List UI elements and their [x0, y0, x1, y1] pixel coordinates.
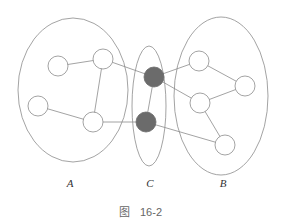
- graph-diagram: [0, 0, 281, 223]
- node-a1: [48, 56, 68, 76]
- group-ellipse-a: [18, 18, 128, 162]
- caption-prefix: 图: [119, 206, 130, 218]
- node-c1: [144, 67, 164, 87]
- group-label-a: A: [67, 177, 74, 189]
- node-a2: [93, 49, 113, 69]
- graph-nodes: [28, 49, 255, 155]
- group-label-c: C: [146, 177, 153, 189]
- caption-number: 16-2: [140, 206, 162, 218]
- group-label-b: B: [220, 177, 227, 189]
- graph-edges: [38, 59, 245, 145]
- node-b2: [235, 76, 255, 96]
- node-b1: [189, 51, 209, 71]
- node-c2: [136, 112, 156, 132]
- node-a3: [28, 96, 48, 116]
- figure-caption: 图16-2: [0, 203, 281, 219]
- node-a4: [83, 112, 103, 132]
- node-b3: [190, 93, 210, 113]
- node-b4: [215, 135, 235, 155]
